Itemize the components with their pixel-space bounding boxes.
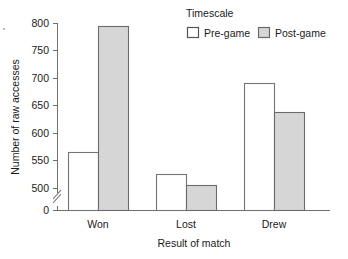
bar-won-post-game[interactable] (99, 27, 129, 211)
y-tick-label-550: 550 (31, 154, 49, 166)
y-axis: 800 750 700 650 600 550 500 0 Number of … (9, 17, 61, 216)
y-tick-label-700: 700 (31, 72, 49, 84)
legend-label-pre-game: Pre-game (204, 27, 250, 39)
x-tick-label-won: Won (87, 218, 109, 230)
bar-chart-figure: 800 750 700 650 600 550 500 0 Number of … (0, 0, 348, 259)
bar-lost-post-game[interactable] (187, 186, 217, 211)
x-tick-label-drew: Drew (262, 218, 287, 230)
legend-entry-post-game[interactable]: Post-game (259, 27, 326, 39)
bar-won-pre-game[interactable] (69, 153, 99, 211)
y-tick-label-650: 650 (31, 99, 49, 111)
legend-title: Timescale (186, 7, 234, 19)
bar-drew-post-game[interactable] (275, 113, 305, 211)
y-axis-title: Number of raw accesses (9, 59, 21, 175)
y-tick-label-750: 750 (31, 44, 49, 56)
bar-group-drew (245, 84, 305, 211)
bar-lost-pre-game[interactable] (157, 175, 187, 211)
x-tick-label-lost: Lost (176, 218, 196, 230)
chart-canvas: 800 750 700 650 600 550 500 0 Number of … (0, 0, 348, 259)
y-tick-label-800: 800 (31, 17, 49, 29)
bar-group-won (69, 27, 129, 211)
legend-label-post-game: Post-game (275, 27, 326, 39)
legend-entry-pre-game[interactable]: Pre-game (188, 27, 251, 39)
legend-swatch-post-game-icon (259, 28, 270, 38)
y-tick-label-500: 500 (31, 182, 49, 194)
y-tick-label-0: 0 (43, 204, 49, 216)
bar-group-lost (157, 175, 217, 211)
x-axis: Won Lost Drew Result of match (58, 211, 331, 250)
bar-drew-pre-game[interactable] (245, 84, 275, 211)
y-tick-label-600: 600 (31, 127, 49, 139)
legend: Timescale Pre-game Post-game (186, 7, 326, 39)
y-axis-break-mark-lower (53, 194, 61, 203)
x-axis-title: Result of match (158, 237, 231, 249)
scan-speck (3, 28, 5, 30)
legend-swatch-pre-game-icon (188, 28, 199, 38)
